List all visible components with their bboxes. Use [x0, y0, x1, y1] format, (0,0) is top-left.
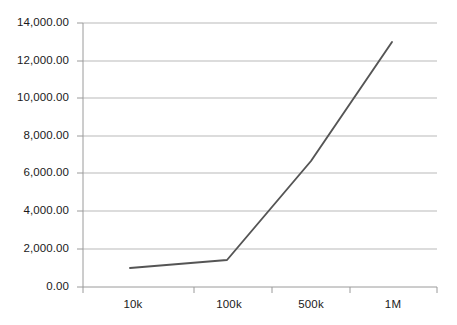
x-axis-label-500k: 500k	[298, 299, 324, 311]
x-axis-label-100k: 100k	[216, 299, 242, 311]
x-axis-label-1m: 1M	[385, 299, 401, 311]
line-chart: 14,000.00 12,000.00 10,000.00 8,000.00 6…	[0, 0, 457, 325]
x-axis-labels: 10k 100k 500k 1M	[0, 0, 457, 325]
x-axis-label-10k: 10k	[123, 299, 142, 311]
